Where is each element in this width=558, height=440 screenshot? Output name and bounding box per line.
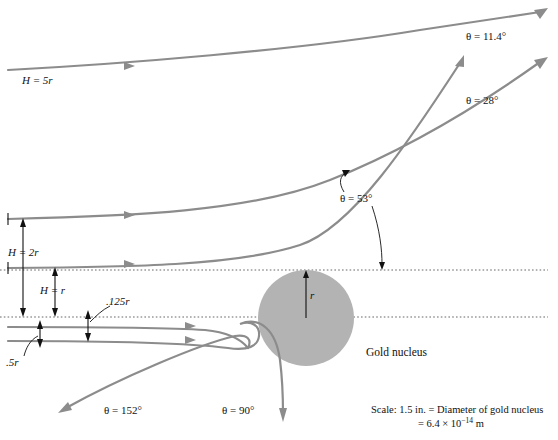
- trajectory-0125r-arrowhead: [58, 402, 72, 413]
- dim-05r-arrowhead-top: [37, 320, 43, 329]
- dim-h2r-arrowhead-bottom: [20, 308, 26, 317]
- label-angle-90: θ = 90°: [222, 404, 254, 416]
- label-05r: .5r: [6, 356, 19, 368]
- scale-note-line1: Scale: 1.5 in. = Diameter of gold nucleu…: [371, 404, 543, 415]
- dim-h1r-arrowhead-bottom: [52, 308, 58, 317]
- scale-note-line2: = 6.4 × 10−14 m: [418, 416, 484, 429]
- angle-53-leader-lower-arrowhead: [379, 262, 385, 270]
- gold-nucleus-label: Gold nucleus: [366, 346, 428, 358]
- trajectory-h2r-arrowhead: [534, 57, 548, 69]
- dim-0125r-arrowhead-top: [85, 310, 91, 319]
- trajectory-05r-arrowhead: [279, 408, 287, 422]
- trajectory-h1r: [8, 63, 460, 268]
- trajectory-h2r: [8, 62, 540, 219]
- trajectory-05r-incoming: [8, 336, 259, 349]
- label-05r-leader: [24, 336, 38, 356]
- scattering-diagram-canvas: r Gold nucleus H = 5r θ = 11.4° θ = 28° …: [0, 0, 558, 440]
- scale-note-line2-prefix: = 6.4 × 10: [418, 418, 461, 429]
- trajectory-h5r-direction-marker: [124, 62, 135, 70]
- label-0125r: .125r: [106, 295, 130, 307]
- angle-53-leader-lower: [372, 206, 382, 264]
- label-h2r: H = 2r: [7, 246, 39, 258]
- label-angle-11-4: θ = 11.4°: [466, 30, 506, 42]
- nucleus-radius-label: r: [310, 289, 315, 301]
- scale-note-line2-suffix: m: [473, 418, 484, 429]
- label-h5r: H = 5r: [21, 74, 53, 86]
- label-angle-152: θ = 152°: [104, 404, 142, 416]
- trajectory-h2r-direction-marker: [124, 211, 135, 219]
- label-angle-28: θ = 28°: [466, 94, 498, 106]
- dim-05r-arrowhead-bottom: [37, 339, 43, 348]
- label-angle-53: θ = 53°: [340, 192, 372, 204]
- trajectory-05r-direction-marker: [185, 336, 196, 344]
- trajectory-0125r-incoming: [8, 327, 248, 348]
- label-h1r: H = r: [39, 284, 66, 296]
- scattering-figure: r Gold nucleus H = 5r θ = 11.4° θ = 28° …: [0, 0, 558, 440]
- scale-note-exponent: −14: [461, 416, 473, 425]
- label-0125r-leader: [90, 306, 110, 322]
- trajectory-h1r-arrowhead: [455, 55, 464, 67]
